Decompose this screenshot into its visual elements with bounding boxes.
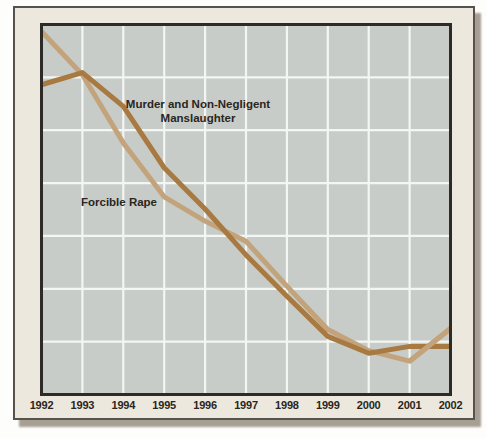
x-tick-1998: 1998	[275, 399, 299, 411]
x-tick-2002: 2002	[439, 399, 463, 411]
figure-frame: Murder and Non-Negligent Manslaughter Fo…	[13, 6, 475, 420]
x-tick-1997: 1997	[234, 399, 258, 411]
series-label-murder: Murder and Non-Negligent Manslaughter	[126, 97, 270, 125]
chart-plot-area: Murder and Non-Negligent Manslaughter Fo…	[40, 23, 452, 396]
x-tick-1992: 1992	[30, 399, 54, 411]
x-tick-1999: 1999	[316, 399, 340, 411]
x-tick-1996: 1996	[193, 399, 217, 411]
scanned-figure-page: Murder and Non-Negligent Manslaughter Fo…	[0, 0, 486, 438]
series-label-murder-line1: Murder and Non-Negligent	[126, 98, 270, 110]
x-tick-2001: 2001	[398, 399, 422, 411]
x-tick-1995: 1995	[152, 399, 176, 411]
line-chart	[40, 23, 452, 396]
series-label-murder-line2: Manslaughter	[161, 112, 236, 124]
x-tick-1994: 1994	[111, 399, 135, 411]
x-tick-1993: 1993	[71, 399, 95, 411]
x-tick-2000: 2000	[357, 399, 381, 411]
series-label-forcible-rape: Forcible Rape	[81, 195, 157, 209]
